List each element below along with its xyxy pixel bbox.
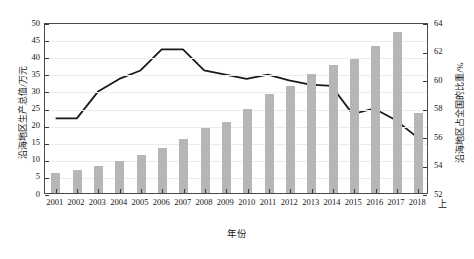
x-axis-tick bbox=[141, 189, 142, 193]
x-axis-tick bbox=[248, 189, 249, 193]
y-axis-left-tick bbox=[45, 58, 49, 59]
y-axis-right-tick bbox=[423, 24, 427, 25]
bar bbox=[307, 74, 316, 193]
y-axis-right-tick-label: 56 bbox=[434, 132, 464, 142]
y-axis-left-tick-label: 15 bbox=[10, 137, 40, 147]
y-axis-left-tick-label: 35 bbox=[10, 69, 40, 79]
y-axis-left-tick-label: 0 bbox=[10, 189, 40, 199]
y-axis-right-tick-label: 54 bbox=[434, 160, 464, 170]
y-axis-left-tick-label: 45 bbox=[10, 35, 40, 45]
gridline bbox=[45, 92, 427, 93]
y-axis-left-tick bbox=[45, 24, 49, 25]
y-axis-right-tick bbox=[423, 81, 427, 82]
y-axis-left-tick bbox=[45, 75, 49, 76]
bar bbox=[329, 65, 338, 193]
y-axis-right-tick bbox=[423, 195, 427, 196]
y-axis-left-tick-label: 50 bbox=[10, 18, 40, 28]
x-axis-tick bbox=[120, 189, 121, 193]
y-axis-left-tick bbox=[45, 92, 49, 93]
y-axis-right-tick bbox=[423, 53, 427, 54]
y-axis-right-tick-label: 60 bbox=[434, 75, 464, 85]
chart-figure: 沿海地区生产总值/万元 沿海地区占全国的比重/% 年份 上 0510152025… bbox=[0, 0, 474, 259]
y-axis-left-tick-label: 40 bbox=[10, 52, 40, 62]
bar bbox=[179, 139, 188, 193]
x-axis-tick bbox=[77, 189, 78, 193]
gridline bbox=[45, 58, 427, 59]
bar bbox=[222, 122, 231, 193]
gridline bbox=[45, 144, 427, 145]
x-axis-title: 年份 bbox=[0, 226, 474, 240]
bar bbox=[265, 94, 274, 193]
bar bbox=[137, 155, 146, 193]
bar bbox=[286, 86, 295, 193]
y-axis-left-tick-label: 25 bbox=[10, 103, 40, 113]
bar bbox=[371, 46, 380, 193]
bar bbox=[201, 128, 210, 193]
y-axis-left-tick bbox=[45, 178, 49, 179]
y-axis-left-tick bbox=[45, 127, 49, 128]
y-axis-left-tick-label: 5 bbox=[10, 171, 40, 181]
x-axis-tick-label: 2018 bbox=[403, 197, 431, 207]
bar bbox=[158, 148, 167, 193]
y-axis-right-tick bbox=[423, 110, 427, 111]
bar bbox=[350, 59, 359, 193]
y-axis-right-tick bbox=[423, 138, 427, 139]
y-axis-left-tick bbox=[45, 161, 49, 162]
y-axis-right-tick-label: 62 bbox=[434, 46, 464, 56]
gridline bbox=[45, 127, 427, 128]
x-axis-tick bbox=[376, 189, 377, 193]
y-axis-left-tick bbox=[45, 110, 49, 111]
x-axis-tick bbox=[98, 189, 99, 193]
x-axis-tick bbox=[269, 189, 270, 193]
bar bbox=[414, 113, 423, 193]
x-axis-tick bbox=[333, 189, 334, 193]
y-axis-left-tick bbox=[45, 144, 49, 145]
x-axis-tick bbox=[290, 189, 291, 193]
y-axis-left-tick bbox=[45, 41, 49, 42]
y-axis-left-tick-label: 20 bbox=[10, 120, 40, 130]
x-axis-tick bbox=[226, 189, 227, 193]
gridline bbox=[45, 75, 427, 76]
y-axis-left-tick-label: 30 bbox=[10, 86, 40, 96]
plot-area bbox=[44, 23, 428, 194]
y-axis-left-tick bbox=[45, 195, 49, 196]
y-axis-left-tick-label: 10 bbox=[10, 154, 40, 164]
x-axis-tick bbox=[312, 189, 313, 193]
x-axis-tick bbox=[205, 189, 206, 193]
x-axis-unit-suffix: 上 bbox=[438, 197, 447, 210]
y-axis-right-tick bbox=[423, 167, 427, 168]
x-axis-tick bbox=[56, 189, 57, 193]
y-axis-right-tick-label: 64 bbox=[434, 18, 464, 28]
gridline bbox=[45, 161, 427, 162]
bar bbox=[243, 109, 252, 193]
x-axis-tick bbox=[162, 189, 163, 193]
y-axis-right-tick-label: 58 bbox=[434, 103, 464, 113]
bar bbox=[393, 32, 402, 193]
x-axis-tick bbox=[184, 189, 185, 193]
x-axis-tick bbox=[397, 189, 398, 193]
x-axis-tick bbox=[354, 189, 355, 193]
x-axis-tick bbox=[418, 189, 419, 193]
gridline bbox=[45, 41, 427, 42]
gridline bbox=[45, 110, 427, 111]
y-axis-right-tick-label: 52 bbox=[434, 189, 464, 199]
